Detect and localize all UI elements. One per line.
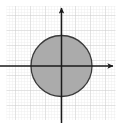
chart-figure xyxy=(0,0,120,123)
coordinate-plane-plot xyxy=(0,0,120,123)
